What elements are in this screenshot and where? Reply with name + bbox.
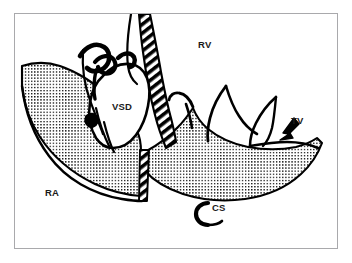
label-right-atrium: RA xyxy=(45,187,59,198)
label-right-ventricle: RV xyxy=(198,39,212,50)
septal-nodule xyxy=(85,113,98,127)
chordae-tail xyxy=(94,70,96,99)
leaflet-curve-2 xyxy=(226,86,257,134)
coronary-sinus-tail xyxy=(208,221,222,225)
anatomical-diagram: RV VSD TV RA CS xyxy=(0,0,352,263)
figure-page: RV VSD TV RA CS xyxy=(0,0,352,263)
label-tricuspid-valve: TV xyxy=(291,115,304,126)
label-ventricular-septal-defect: VSD xyxy=(112,101,132,112)
leaflet-septal xyxy=(169,93,193,107)
hatched-band-lower xyxy=(139,150,149,201)
coronary-sinus-marker xyxy=(196,203,208,225)
label-coronary-sinus: CS xyxy=(212,202,226,213)
